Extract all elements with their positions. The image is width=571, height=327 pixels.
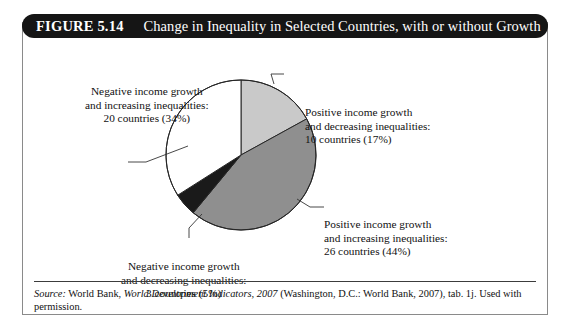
source-note: Source: World Bank, World Development In… <box>34 288 538 313</box>
figure-title: Change in Inequality in Selected Countri… <box>144 18 541 35</box>
callout-line-2: and increasing inequalities: <box>85 99 209 113</box>
callout-line-1: Positive income growth <box>324 218 448 232</box>
chart-area: Negative income growth and increasing in… <box>22 38 548 273</box>
callout-line-1: Negative income growth <box>85 85 209 99</box>
callout-line-1: Positive income growth <box>305 106 430 120</box>
source-publication-title: World Development Indicators, 2007 <box>124 288 278 299</box>
leader-line-positive-decreasing <box>271 74 284 84</box>
callout-line-3: 10 countries (17%) <box>305 133 430 147</box>
callout-positive-increasing: Positive income growth and increasing in… <box>324 218 448 259</box>
source-label: Source: <box>34 288 66 299</box>
figure-number: FIGURE 5.14 <box>36 18 124 35</box>
source-divider <box>34 281 536 282</box>
figure-header-bar: FIGURE 5.14 Change in Inequality in Sele… <box>22 14 548 38</box>
callout-line-2: and increasing inequalities: <box>324 232 448 246</box>
pie-chart <box>22 38 548 273</box>
callout-line-2: and decreasing inequalities: <box>305 120 430 134</box>
callout-positive-decreasing: Positive income growth and decreasing in… <box>305 106 430 147</box>
callout-negative-increasing: Negative income growth and increasing in… <box>85 85 209 126</box>
callout-line-1: Negative income growth <box>121 260 246 274</box>
source-text-before: World Bank, <box>66 288 124 299</box>
callout-line-3: 20 countries (34%) <box>85 112 209 126</box>
callout-line-3: 26 countries (44%) <box>324 245 448 259</box>
